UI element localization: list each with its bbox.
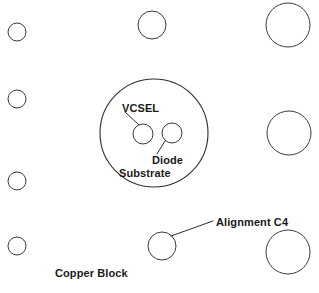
alignment-c4-leader-line — [171, 221, 213, 236]
diode-aperture — [162, 123, 182, 143]
copper-block-label: Copper Block — [55, 267, 128, 279]
substrate-label: Substrate — [119, 167, 171, 179]
c4-bump-left-1 — [8, 23, 26, 41]
diagram-canvas: VCSEL Diode Substrate Alignment C4 Coppe… — [0, 0, 319, 293]
c4-bump-top-right — [266, 3, 310, 47]
alignment-c4-label: Alignment C4 — [216, 216, 288, 228]
diagram-vector-layer — [0, 0, 319, 293]
diode-label: Diode — [152, 154, 183, 166]
c4-bump-top-center — [138, 11, 166, 39]
c4-bump-middle-right — [267, 111, 311, 155]
c4-bump-left-3 — [8, 172, 26, 190]
c4-bump-left-2 — [8, 90, 26, 108]
c4-bump-bottom-right — [266, 230, 310, 274]
c4-bump-left-4 — [8, 237, 26, 255]
vcsel-aperture — [133, 124, 153, 144]
vcsel-label: VCSEL — [122, 102, 159, 114]
